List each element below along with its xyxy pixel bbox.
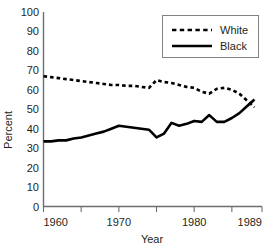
y-tick-label: 0 [33,201,39,213]
chart-legend: White Black [163,16,259,58]
y-tick-label: 20 [27,162,39,174]
y-axis-title: Percent [2,111,14,149]
series-line-black [44,100,255,142]
x-tick-label: 1980 [182,216,206,228]
y-tick-label: 50 [27,103,39,115]
y-tick-label: 10 [27,181,39,193]
line-chart: 0102030405060708090100 1960197019801989 … [0,0,279,251]
y-tick-label: 60 [27,84,39,96]
x-axis-tick-labels: 1960197019801989 [44,216,263,228]
legend-label-black: Black [220,40,247,52]
chart-container: 0102030405060708090100 1960197019801989 … [0,0,279,251]
y-axis-tick-labels: 0102030405060708090100 [21,6,39,213]
y-tick-label: 40 [27,123,39,135]
x-axis-title: Year [141,233,164,245]
y-tick-label: 100 [21,6,39,18]
x-tick-label: 1960 [44,216,68,228]
x-tick-label: 1989 [238,216,262,228]
x-axis-tick-marks [44,207,263,213]
x-tick-label: 1970 [107,216,131,228]
legend-label-white: White [220,24,248,36]
series-line-white [44,76,255,107]
y-tick-label: 70 [27,64,39,76]
y-tick-label: 90 [27,25,39,37]
y-tick-label: 80 [27,45,39,57]
y-tick-label: 30 [27,142,39,154]
data-series-group [44,76,255,141]
